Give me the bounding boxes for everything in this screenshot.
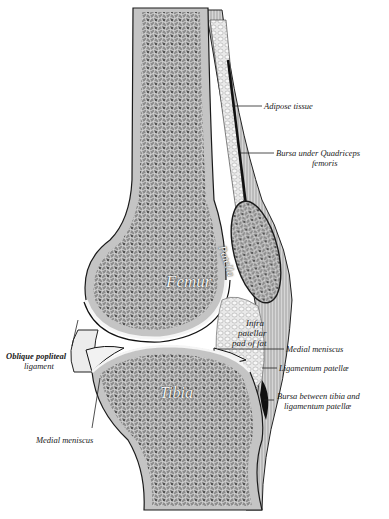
label-oblique-popliteal-2: ligament bbox=[24, 361, 54, 371]
label-bursa-tibia-2: ligamentum patellæ bbox=[284, 401, 351, 411]
label-medial-meniscus-left: Medial meniscus bbox=[36, 435, 93, 445]
label-medial-meniscus-right: Medial meniscus bbox=[286, 344, 343, 354]
infrapatellar-label-2: patellar bbox=[238, 328, 267, 338]
femur-label: Femur bbox=[166, 272, 211, 292]
label-bursa-quadriceps-2: femoris bbox=[312, 158, 338, 168]
infrapatellar-label-3: pad of fat bbox=[232, 338, 267, 348]
tibia-label: Tibia bbox=[160, 384, 193, 402]
label-bursa-tibia-1: Bursa between tibia and bbox=[277, 391, 360, 401]
label-ligamentum-patellae: Ligamentum patellæ bbox=[279, 363, 349, 373]
label-bursa-quadriceps-1: Bursa under Quadriceps bbox=[276, 148, 360, 158]
label-oblique-popliteal-text: Oblique popliteal bbox=[6, 351, 66, 361]
label-adipose-tissue: Adipose tissue bbox=[264, 101, 313, 111]
infrapatellar-label-1: Infra bbox=[246, 318, 264, 328]
label-oblique-popliteal-1: Oblique popliteal bbox=[6, 351, 66, 361]
